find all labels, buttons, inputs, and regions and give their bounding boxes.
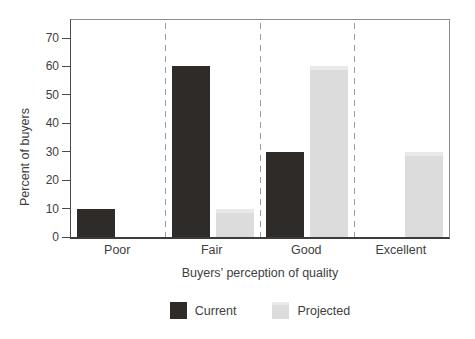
y-tick — [62, 180, 70, 181]
bar-current-good — [266, 152, 304, 237]
legend-label-current: Current — [195, 304, 237, 318]
plot-area: 010203040506070 — [70, 19, 450, 239]
legend-item-current: Current — [170, 302, 237, 319]
y-tick-label: 40 — [46, 116, 59, 130]
category-label-good: Good — [291, 243, 322, 257]
y-tick-label: 30 — [46, 145, 59, 159]
legend: Current Projected — [70, 302, 450, 319]
category-separator-2 — [260, 23, 261, 237]
category-label-fair: Fair — [201, 243, 223, 257]
legend-item-projected: Projected — [272, 302, 350, 319]
y-tick — [62, 123, 70, 124]
legend-swatch-current — [170, 302, 187, 319]
x-category-labels: PoorFairGoodExcellent — [70, 243, 450, 259]
bar-current-fair — [172, 66, 210, 237]
legend-label-projected: Projected — [297, 304, 350, 318]
category-separator-1 — [165, 23, 166, 237]
y-tick-label: 20 — [46, 173, 59, 187]
category-separator-3 — [354, 23, 355, 237]
y-tick-label: 10 — [46, 202, 59, 216]
legend-swatch-projected — [272, 302, 289, 319]
y-tick — [62, 94, 70, 95]
y-tick — [62, 38, 70, 39]
y-tick — [62, 66, 70, 67]
y-tick-label: 60 — [46, 59, 59, 73]
y-tick-label: 50 — [46, 88, 59, 102]
figure-root: Percent of buyers 010203040506070 PoorFa… — [0, 0, 475, 339]
y-axis-title: Percent of buyers — [18, 108, 32, 206]
y-tick-label: 70 — [46, 31, 59, 45]
y-tick-label: 0 — [52, 230, 59, 244]
category-label-excellent: Excellent — [375, 243, 426, 257]
bar-current-poor — [77, 209, 115, 237]
bar-projected-good — [310, 66, 348, 237]
category-label-poor: Poor — [104, 243, 130, 257]
y-tick — [62, 237, 70, 238]
y-tick — [62, 208, 70, 209]
x-axis-title: Buyers’ perception of quality — [70, 266, 450, 280]
bar-projected-excellent — [405, 152, 443, 237]
bar-projected-fair — [216, 209, 254, 237]
y-tick — [62, 151, 70, 152]
